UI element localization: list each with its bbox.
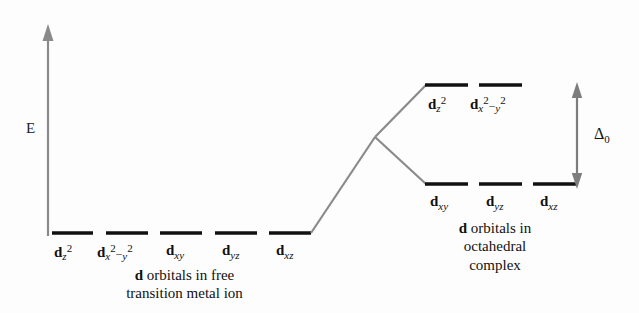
orbital-label-free-dyz: dyz: [222, 243, 240, 261]
orbital-label-t2g-dyz: dyz: [486, 194, 504, 212]
orbital-superscript-2: 2: [127, 242, 133, 254]
free-ion-caption: d orbitals in free transition metal ion: [82, 266, 287, 303]
caption-d-letter: d: [135, 267, 143, 283]
delta-symbol: Δ: [594, 125, 604, 142]
orbital-label-free-dxy: dxy: [166, 243, 184, 261]
orbital-superscript: 2: [67, 242, 73, 254]
orbital-label-eg-dz2: dz2: [428, 95, 446, 114]
orbital-label-free-dxz: dxz: [276, 243, 294, 261]
octahedral-caption-line-2: octahedral: [415, 237, 575, 255]
orbital-superscript-2: 2: [500, 94, 506, 106]
orbital-superscript: 2: [110, 242, 116, 254]
orbital-subscript: yz: [230, 249, 239, 261]
energy-axis-label: E: [26, 120, 35, 137]
orbital-subscript: yz: [494, 200, 503, 212]
orbital-subscript: xy: [438, 200, 448, 212]
orbital-label-t2g-dxy: dxy: [430, 194, 448, 212]
crystal-field-splitting-diagram: E Δ0 dz2 dx2–y2 dxy dyz dxz dz2 dx2–y2 d…: [0, 0, 639, 313]
octahedral-caption: d orbitals in octahedral complex: [415, 219, 575, 274]
orbital-label-free-dz2: dz2: [54, 243, 72, 262]
orbital-subscript: xy: [174, 249, 184, 261]
orbital-subscript: xz: [548, 200, 557, 212]
orbital-superscript: 2: [483, 94, 489, 106]
octahedral-caption-line-1: d orbitals in: [415, 219, 575, 237]
caption-line-1-rest: orbitals in: [467, 220, 531, 236]
orbital-label-eg-dx2y2: dx2–y2: [470, 95, 506, 114]
caption-line-1-rest: orbitals in free: [143, 267, 234, 283]
energy-axis-arrow: [43, 24, 54, 236]
splitting-connector-lines: [311, 85, 426, 233]
free-ion-caption-line-1: d orbitals in free: [82, 266, 287, 284]
delta-zero-label: Δ0: [594, 125, 610, 145]
orbital-subscript: xz: [284, 249, 293, 261]
delta-splitting-arrow: [572, 82, 582, 189]
orbital-superscript: 2: [441, 94, 447, 106]
caption-d-letter: d: [459, 220, 467, 236]
delta-subscript: 0: [604, 133, 610, 145]
orbital-label-t2g-dxz: dxz: [540, 194, 558, 212]
octahedral-caption-line-3: complex: [415, 256, 575, 274]
orbital-label-free-dx2y2: dx2–y2: [97, 243, 133, 262]
free-ion-caption-line-2: transition metal ion: [82, 284, 287, 302]
